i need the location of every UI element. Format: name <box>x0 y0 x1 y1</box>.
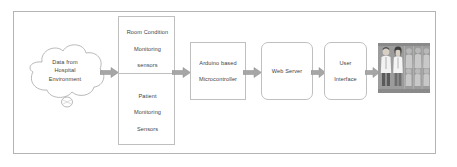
right-arrow-icon <box>243 67 262 78</box>
right-arrow-icon <box>172 67 191 78</box>
room-sensors-line1: Room Condition <box>124 28 172 36</box>
arduino-based-microcontroller: Arduino based Microcontroller <box>190 42 246 100</box>
room-sensors-line2: Monitoring <box>124 45 172 53</box>
medical-staff-illustration-icon <box>378 43 430 93</box>
patient-sensors-line1: Patient <box>131 92 164 100</box>
microcontroller-line2: Microcontroller <box>196 75 240 83</box>
web-server-label: Web Server <box>269 67 305 75</box>
user-interface-line2: Interface <box>331 75 360 83</box>
arrow-sensors-to-microcontroller <box>172 67 191 78</box>
sensors-passthrough-line <box>119 73 174 74</box>
arrow-cloud-to-sensors <box>100 67 119 78</box>
data-source-cloud: Data from Hospital Environment <box>22 40 108 112</box>
medical-staff-photo <box>378 43 430 93</box>
patient-sensors-line3: Sensors <box>131 125 164 133</box>
cloud-label: Data from Hospital Environment <box>22 58 108 83</box>
cloud-label-line1: Data from <box>22 58 108 66</box>
patient-sensors-line2: Monitoring <box>131 108 164 116</box>
room-sensors-line3: sensors <box>124 61 172 69</box>
arrow-microcontroller-to-webserver <box>243 67 262 78</box>
right-arrow-icon <box>100 67 119 78</box>
user-interface-line1: User <box>331 59 360 67</box>
cloud-label-line2: Hospital <box>22 66 108 74</box>
web-server: Web Server <box>261 42 313 100</box>
cloud-label-line3: Environment <box>22 75 108 83</box>
patient-monitoring-sensors: Patient Monitoring Sensors <box>119 81 176 145</box>
room-condition-monitoring-sensors: Room Condition Monitoring sensors <box>119 17 176 81</box>
diagram-canvas: Data from Hospital Environment Room Cond… <box>0 0 457 167</box>
user-interface: User Interface <box>324 42 367 100</box>
sensors-container: Room Condition Monitoring sensors Patien… <box>118 16 175 145</box>
microcontroller-line1: Arduino based <box>196 59 240 67</box>
